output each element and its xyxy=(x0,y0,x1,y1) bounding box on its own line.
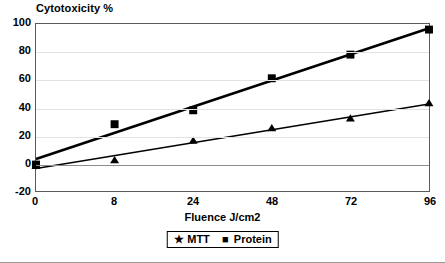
x-axis: 0824487296 xyxy=(35,195,430,211)
y-tick-label: 100 xyxy=(1,17,31,28)
data-point-mtt xyxy=(110,156,119,163)
y-axis: -20020406080100 xyxy=(0,23,31,192)
gridline xyxy=(36,109,429,110)
x-tick-label: 48 xyxy=(252,195,292,207)
legend-item-mtt[interactable]: ★MTT xyxy=(173,233,210,245)
legend-label: MTT xyxy=(187,233,210,245)
x-tick-label: 0 xyxy=(15,195,55,207)
gridline xyxy=(36,80,429,81)
y-tick-label: 80 xyxy=(1,45,31,56)
y-tick-label: 40 xyxy=(1,102,31,113)
y-tick-label: 20 xyxy=(1,130,31,141)
chart-legend: ★MTT■Protein xyxy=(166,231,279,248)
zero-line xyxy=(36,165,429,166)
star-icon: ★ xyxy=(173,234,184,245)
x-axis-title: Fluence J/cm2 xyxy=(0,211,445,223)
gridline xyxy=(36,52,429,53)
data-point-mtt xyxy=(267,124,276,131)
x-tick-label: 72 xyxy=(331,195,371,207)
x-tick-label: 24 xyxy=(173,195,213,207)
legend-label: Protein xyxy=(234,233,272,245)
data-point-protein xyxy=(425,26,433,34)
gridline xyxy=(36,137,429,138)
plot-area xyxy=(35,23,430,192)
legend-item-protein[interactable]: ■Protein xyxy=(220,233,272,245)
square-icon: ■ xyxy=(220,234,231,245)
series-overlay xyxy=(36,24,429,191)
chart-title: Cytotoxicity % xyxy=(36,2,113,14)
cytotoxicity-chart: Cytotoxicity % -20020406080100 082448729… xyxy=(0,0,445,263)
y-tick-label: 0 xyxy=(1,158,31,169)
data-point-mtt xyxy=(425,99,434,106)
trendline-protein xyxy=(36,28,429,159)
x-tick-label: 96 xyxy=(410,195,445,207)
x-tick-label: 8 xyxy=(94,195,134,207)
y-tick-label: 60 xyxy=(1,73,31,84)
data-point-protein xyxy=(111,120,119,128)
